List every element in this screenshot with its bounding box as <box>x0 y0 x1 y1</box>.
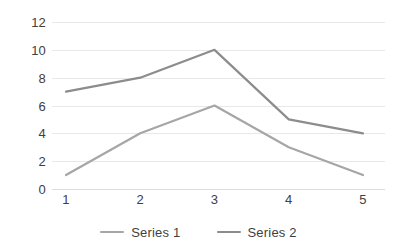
y-axis-label-8: 8 <box>0 71 46 84</box>
series-layer <box>52 22 385 189</box>
x-axis-label-4: 4 <box>285 193 292 206</box>
x-axis-label-5: 5 <box>359 193 366 206</box>
gridline-0 <box>52 189 385 190</box>
series-line-series-2 <box>66 50 363 134</box>
y-axis-label-0: 0 <box>0 183 46 196</box>
x-axis-label-3: 3 <box>211 193 218 206</box>
x-axis-label-2: 2 <box>137 193 144 206</box>
y-axis-label-2: 2 <box>0 155 46 168</box>
x-axis: 12345 <box>52 193 385 213</box>
legend-item-1[interactable]: Series 1 <box>100 226 180 239</box>
y-axis-label-12: 12 <box>0 16 46 29</box>
y-axis-label-4: 4 <box>0 127 46 140</box>
y-axis-label-6: 6 <box>0 99 46 112</box>
legend-item-2[interactable]: Series 2 <box>217 226 297 239</box>
chart-legend: Series 1Series 2 <box>0 221 397 243</box>
y-axis-label-10: 10 <box>0 43 46 56</box>
legend-label: Series 1 <box>131 226 180 239</box>
x-axis-label-1: 1 <box>62 193 69 206</box>
legend-line-swatch-icon <box>100 231 124 233</box>
line-chart: 024681012 12345 Series 1Series 2 <box>0 0 397 250</box>
plot-area <box>52 22 385 189</box>
legend-line-swatch-icon <box>217 231 241 233</box>
y-axis: 024681012 <box>0 22 46 189</box>
series-line-series-1 <box>66 106 363 176</box>
legend-label: Series 2 <box>248 226 297 239</box>
